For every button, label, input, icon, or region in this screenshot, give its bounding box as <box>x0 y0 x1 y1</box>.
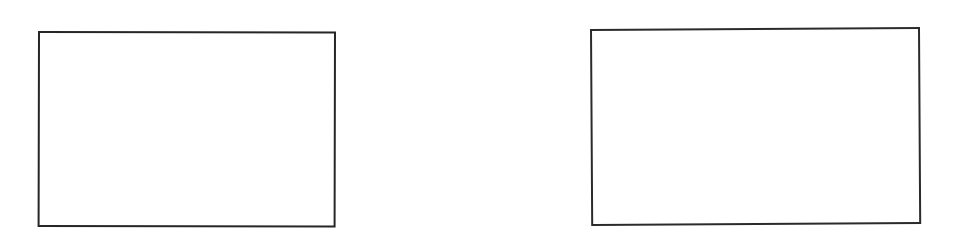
left-frame[interactable] <box>38 31 336 228</box>
page-canvas <box>0 0 958 238</box>
right-frame[interactable] <box>590 27 921 226</box>
